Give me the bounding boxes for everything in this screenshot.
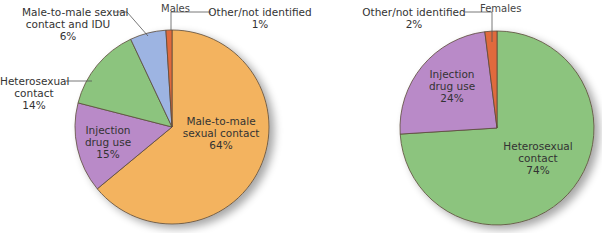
label-females-other: Other/not identified 2% <box>361 6 467 30</box>
label-males-msm: Male-to-male sexual contact 64% <box>176 115 266 151</box>
pie-females <box>400 31 594 225</box>
label-females-idu: Injection drug use 24% <box>424 68 480 104</box>
females-title: Females <box>480 3 521 14</box>
label-males-other: Other/not identified 1% <box>206 6 314 30</box>
chart-figure: Males Females Male-to-male sexual contac… <box>0 0 602 233</box>
label-males-idu: Injection drug use 15% <box>80 124 136 160</box>
label-males-msm-idu: Male-to-male sexual contact and IDU 6% <box>22 6 114 42</box>
males-title: Males <box>161 3 190 14</box>
label-males-hetero: Heterosexual contact 14% <box>0 75 68 111</box>
label-females-hetero: Heterosexual contact 74% <box>500 140 576 176</box>
